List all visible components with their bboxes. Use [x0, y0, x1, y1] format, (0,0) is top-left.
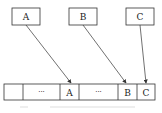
- array-cell-a: A: [65, 88, 73, 98]
- array: ··· A ··· B C: [4, 84, 155, 100]
- caption-fragment: [20, 106, 28, 108]
- array-cell-ellipsis-1: ···: [38, 88, 45, 96]
- top-box-a: A: [12, 8, 40, 25]
- top-box-a-label: A: [22, 12, 30, 22]
- arrow-b: [83, 25, 126, 83]
- diagram-canvas: A B C ··· A ··· B C: [0, 0, 162, 113]
- top-box-c: C: [126, 8, 154, 25]
- caption-fragment: [50, 106, 135, 108]
- array-cell-c: C: [143, 88, 150, 98]
- top-box-c-label: C: [137, 12, 144, 22]
- arrow-a: [26, 25, 71, 83]
- arrow-c: [140, 25, 146, 83]
- array-cell-b: B: [124, 88, 131, 98]
- top-box-b: B: [69, 8, 97, 25]
- top-box-b-label: B: [80, 12, 87, 22]
- array-cell-ellipsis-2: ···: [95, 88, 102, 96]
